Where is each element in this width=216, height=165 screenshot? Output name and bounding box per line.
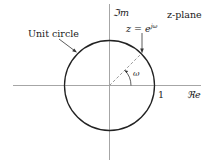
angle-label: ω: [133, 69, 140, 78]
point-label-exponent: jω: [149, 22, 158, 30]
real-tick-label: 1: [158, 89, 164, 100]
angle-arrowhead-icon: [125, 70, 129, 73]
unit-circle-pointer: [59, 39, 75, 51]
z-plane-diagram: ℑm z-plane z = ejω Unit circle ω 1 ℜe: [0, 0, 216, 165]
point-label: z = ejω: [125, 22, 158, 34]
angle-arc: [125, 70, 131, 85]
imaginary-axis-label: ℑm: [113, 7, 129, 18]
point-label-base: z = e: [125, 23, 151, 34]
plane-title: z-plane: [167, 9, 202, 20]
unit-circle-label: Unit circle: [28, 28, 79, 39]
real-axis-label: ℜe: [187, 89, 201, 100]
